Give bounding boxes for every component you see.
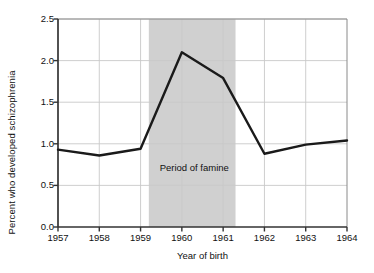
x-tick-label: 1961	[203, 232, 243, 244]
x-tick-label: 1958	[79, 232, 119, 244]
y-tick-label: 1.5	[28, 97, 54, 107]
y-tick-label: 0.0	[28, 222, 54, 232]
famine-period-label: Period of famine	[160, 162, 229, 173]
y-tick-label: 0.5	[28, 180, 54, 190]
famine-shaded-band	[149, 19, 236, 227]
x-axis-tick-labels: 19571958195919601961196219631964	[0, 232, 374, 246]
x-tick-label: 1959	[121, 232, 161, 244]
x-tick-label: 1964	[327, 232, 367, 244]
chart-container: Percent who developed schizophrenia 0.00…	[0, 0, 374, 273]
y-tick-label: 2.0	[28, 56, 54, 66]
y-tick-label: 1.0	[28, 139, 54, 149]
x-axis-title: Year of birth	[58, 250, 347, 261]
x-tick-label: 1960	[162, 232, 202, 244]
shaded-band-rect	[149, 19, 236, 227]
x-tick-label: 1957	[38, 232, 78, 244]
y-axis-title-text: Percent who developed schizophrenia	[6, 70, 17, 234]
x-tick-label: 1963	[286, 232, 326, 244]
y-tick-label: 2.5	[28, 14, 54, 24]
x-tick-label: 1962	[244, 232, 284, 244]
